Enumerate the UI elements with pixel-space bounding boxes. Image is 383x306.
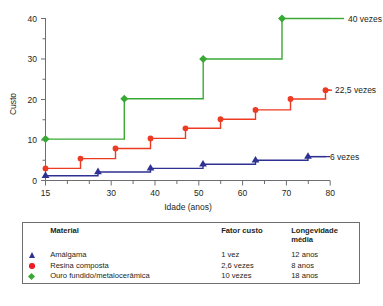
series-amalgama: 6 vezes — [42, 152, 360, 178]
x-tick-label: 15 — [41, 188, 51, 198]
triangle-marker-cell — [23, 250, 50, 261]
circle-marker-icon — [29, 263, 35, 269]
legend-longevidade: 8 anos — [291, 261, 359, 272]
x-axis-title: Idade (anos) — [164, 202, 212, 212]
x-tick-label: 70 — [282, 188, 292, 198]
amalgama-markers — [42, 152, 312, 178]
x-tick-label: 60 — [238, 188, 248, 198]
resina-annotation: 22,5 vezes — [335, 85, 376, 95]
amalgama-annotation: 6 vezes — [330, 152, 359, 162]
legend-header-row: Material Fator custo Longevidade média — [23, 223, 359, 250]
x-tick-label: 30 — [106, 188, 116, 198]
series-ouro-fundido-metaloceramica: 40 vezes — [42, 14, 383, 144]
legend-fator: 2,6 vezes — [221, 261, 291, 272]
x-tick-label: 50 — [194, 188, 204, 198]
triangle-marker-icon — [29, 252, 35, 258]
x-tick-label: 80 — [325, 188, 335, 198]
legend-longevidade: 18 anos — [291, 271, 359, 282]
diamond-marker-cell — [23, 271, 50, 282]
legend-material: Resina composta — [50, 261, 221, 272]
y-tick-label: 10 — [28, 135, 38, 145]
legend-row-ouro: Ouro fundido/metalocerâmica 10 vezes 18 … — [23, 271, 359, 282]
chart-area: 40 30 20 10 0 Custo — [0, 0, 383, 216]
ouro-annotation: 40 vezes — [348, 14, 382, 24]
series-resina-composta: 22,5 vezes — [43, 85, 377, 171]
circle-marker-cell — [23, 261, 50, 272]
legend-table-box: Material Fator custo Longevidade média A… — [22, 222, 360, 284]
y-axis-ticks: 40 30 20 10 0 — [28, 14, 46, 186]
diamond-marker-icon — [28, 273, 35, 280]
x-tick-label: 40 — [150, 188, 160, 198]
ouro-step-path — [46, 19, 331, 140]
cost-vs-age-step-chart: 40 30 20 10 0 Custo — [0, 0, 383, 216]
y-tick-label: 40 — [28, 14, 38, 24]
ouro-markers — [42, 15, 287, 144]
chart-page: 40 30 20 10 0 Custo — [0, 0, 383, 306]
amalgama-step-path — [46, 157, 331, 176]
legend-material: Amálgama — [50, 250, 221, 261]
legend-fator: 10 vezes — [221, 271, 291, 282]
legend-header-material: Material — [50, 223, 221, 250]
x-axis-ticks: 15 30 40 50 — [41, 181, 335, 199]
y-tick-label: 0 — [32, 176, 37, 186]
legend-table: Material Fator custo Longevidade média A… — [23, 223, 359, 282]
legend-longevidade: 12 anos — [291, 250, 359, 261]
legend-header-marker — [23, 223, 50, 250]
legend-header-fator: Fator custo — [221, 223, 291, 250]
legend-fator: 1 vez — [221, 250, 291, 261]
legend-row-amalgama: Amálgama 1 vez 12 anos — [23, 250, 359, 261]
legend-row-resina: Resina composta 2,6 vezes 8 anos — [23, 261, 359, 272]
y-tick-label: 20 — [28, 95, 38, 105]
legend-material: Ouro fundido/metalocerâmica — [50, 271, 221, 282]
y-axis-title: Custo — [8, 93, 18, 115]
legend-header-longevidade: Longevidade média — [291, 223, 359, 250]
y-tick-label: 30 — [28, 54, 38, 64]
